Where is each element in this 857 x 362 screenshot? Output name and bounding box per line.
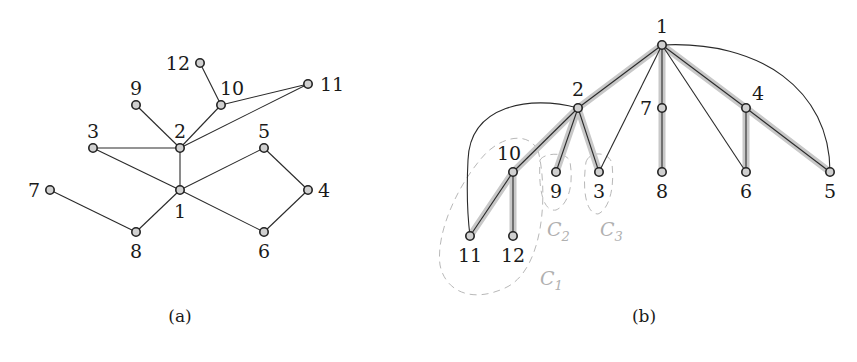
back-edge-1-6 xyxy=(662,45,746,172)
node-5 xyxy=(826,168,834,176)
panel-b-edges xyxy=(467,45,830,236)
node-label-9: 9 xyxy=(130,77,142,99)
edge-4-6 xyxy=(264,190,308,232)
panel-a-nodes: 123456789101112 xyxy=(28,52,344,262)
node-6 xyxy=(742,168,750,176)
edge-1-6 xyxy=(180,190,264,232)
cluster-label: C1 xyxy=(540,267,563,293)
cluster-label: C2 xyxy=(547,218,570,244)
node-12 xyxy=(196,59,204,67)
node-label-1: 1 xyxy=(656,15,668,37)
node-10 xyxy=(217,101,225,109)
edge-5-4 xyxy=(264,148,308,190)
node-4 xyxy=(304,186,312,194)
node-5 xyxy=(260,144,268,152)
edge-2-10 xyxy=(180,105,221,148)
node-11 xyxy=(466,232,474,240)
tree-edge-2-3 xyxy=(578,108,599,172)
edge-1-5 xyxy=(180,148,264,190)
node-6 xyxy=(260,228,268,236)
node-label-5: 5 xyxy=(258,120,270,142)
node-label-10: 10 xyxy=(220,77,244,99)
node-7 xyxy=(658,104,666,112)
node-11 xyxy=(304,80,312,88)
node-3 xyxy=(595,168,603,176)
edge-10-12 xyxy=(200,63,221,105)
edge-7-8 xyxy=(50,190,136,232)
node-label-6: 6 xyxy=(740,180,752,202)
node-label-8: 8 xyxy=(130,240,142,262)
node-label-9: 9 xyxy=(550,180,562,202)
node-label-1: 1 xyxy=(174,200,186,222)
panel-a-caption: (a) xyxy=(168,306,191,326)
edge-1-3 xyxy=(93,148,180,190)
node-label-4: 4 xyxy=(752,82,764,104)
node-label-10: 10 xyxy=(497,142,521,164)
panel-b-caption: (b) xyxy=(632,306,656,326)
back-edge-1-3 xyxy=(599,45,662,172)
node-label-2: 2 xyxy=(572,78,584,100)
node-9 xyxy=(132,101,140,109)
node-label-12: 12 xyxy=(501,244,525,266)
node-label-6: 6 xyxy=(258,240,270,262)
node-label-7: 7 xyxy=(640,97,652,119)
node-12 xyxy=(509,232,517,240)
cluster-label: C3 xyxy=(600,218,623,244)
node-label-11: 11 xyxy=(320,73,344,95)
node-7 xyxy=(46,186,54,194)
node-label-12: 12 xyxy=(166,52,190,74)
node-2 xyxy=(574,104,582,112)
node-4 xyxy=(742,104,750,112)
node-3 xyxy=(89,144,97,152)
node-2 xyxy=(176,144,184,152)
node-label-2: 2 xyxy=(174,120,186,142)
node-10 xyxy=(509,168,517,176)
node-1 xyxy=(176,186,184,194)
node-label-8: 8 xyxy=(656,180,668,202)
node-8 xyxy=(132,228,140,236)
panel-b-tree-highlight xyxy=(470,45,830,236)
node-label-4: 4 xyxy=(318,179,330,201)
node-label-3: 3 xyxy=(593,180,605,202)
node-8 xyxy=(658,168,666,176)
tree-edge-10-11 xyxy=(470,172,513,236)
node-label-5: 5 xyxy=(824,180,836,202)
tree-edge-1-4 xyxy=(662,45,746,108)
node-1 xyxy=(658,41,666,49)
graph-figure: 123456789101112 (a) C1C2C3 1274109386511… xyxy=(0,0,857,362)
panel-b-dfs-tree: C1C2C3 127410938651112 (b) xyxy=(439,15,836,326)
node-9 xyxy=(552,168,560,176)
panel-a-graph: 123456789101112 (a) xyxy=(28,52,344,326)
node-label-7: 7 xyxy=(28,179,40,201)
node-label-11: 11 xyxy=(458,244,482,266)
node-label-3: 3 xyxy=(87,120,99,142)
